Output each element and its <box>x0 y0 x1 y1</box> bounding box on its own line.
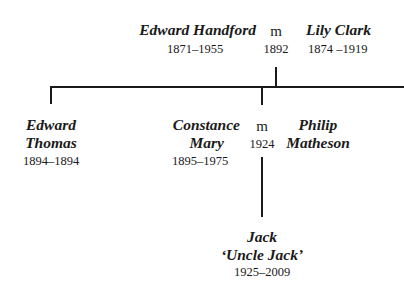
person-jack-name-line1: Jack <box>212 229 312 245</box>
sibling-bar-line <box>50 86 404 88</box>
person-constance-mary-name-line2: Mary <box>190 135 224 151</box>
child-drop-line-jack <box>261 157 263 217</box>
marriage-symbol-gen2: m <box>248 119 276 134</box>
child-drop-line-constance-mary <box>261 86 263 105</box>
marriage-year-gen2: 1924 <box>246 138 278 151</box>
marriage-year-gen1: 1892 <box>260 43 292 56</box>
parent-descent-line <box>275 67 277 87</box>
person-edward-thomas-name-line2: Thomas <box>0 135 102 151</box>
person-edward-handford-dates: 1871–1955 <box>145 43 245 56</box>
person-philip-matheson-name-line1: Philip <box>278 117 358 133</box>
person-edward-thomas-name-line1: Edward <box>0 117 102 133</box>
person-jack-name-line2: ‘Uncle Jack’ <box>212 247 312 263</box>
person-edward-handford-name: Edward Handford <box>139 22 256 38</box>
person-edward-thomas-dates: 1894–1894 <box>0 155 102 168</box>
person-lily-clark-dates: 1874 –1919 <box>308 43 367 56</box>
person-philip-matheson-name-line2: Matheson <box>278 135 358 151</box>
person-jack-dates: 1925–2009 <box>212 266 312 279</box>
person-constance-mary-name-line1: Constance <box>173 117 240 133</box>
person-constance-mary-dates: 1895–1975 <box>160 155 240 168</box>
marriage-symbol-gen1: m <box>262 24 290 39</box>
child-drop-line-edward-thomas <box>50 86 52 104</box>
person-lily-clark-name: Lily Clark <box>306 22 371 38</box>
